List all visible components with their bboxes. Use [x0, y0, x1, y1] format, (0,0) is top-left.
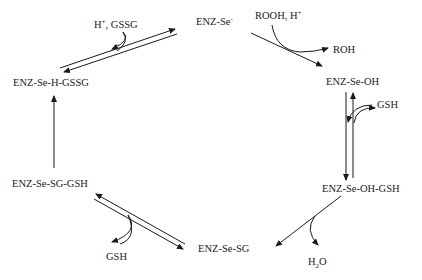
- reagent-gsh-right: GSH: [377, 99, 398, 111]
- reagent-rooh-h: ROOH, H+: [255, 10, 302, 22]
- reagent-h-gssg: H+, GSSG: [94, 19, 138, 31]
- reagent-text: O: [319, 256, 327, 267]
- charge-superscript: +: [298, 9, 302, 17]
- node-enz-se-minus: ENZ-Se-: [196, 16, 233, 28]
- reagent-text: ROOH, H: [255, 10, 298, 21]
- node-enz-se-h-gssg: ENZ-Se-H-GSSG: [13, 77, 89, 89]
- reagent-roh: ROH: [333, 44, 355, 56]
- node-enz-se-oh-gsh: ENZ-Se-OH-GSH: [322, 183, 400, 195]
- arrow-reverse-to-h-gssg: [64, 34, 177, 72]
- node-enz-se-sg-gsh: ENZ-Se-SG-GSH: [12, 178, 88, 190]
- node-enz-se-oh: ENZ-Se-OH: [326, 76, 379, 88]
- arrow-forward-to-enz-se: [60, 29, 175, 68]
- node-enz-se-sg: ENZ-Se-SG: [198, 243, 249, 255]
- arrows-layer: [0, 0, 422, 280]
- charge-superscript: -: [230, 15, 232, 23]
- reagent-text: , GSSG: [106, 19, 138, 30]
- reagent-h2o: H2O: [308, 256, 327, 268]
- reagent-gsh-bottom: GSH: [106, 251, 127, 263]
- reagent-text: H: [94, 19, 102, 30]
- reaction-cycle-diagram: ENZ-Se- ENZ-Se-OH ENZ-Se-OH-GSH ENZ-Se-S…: [0, 0, 422, 280]
- node-label: ENZ-Se: [196, 16, 230, 27]
- reagent-text: H: [308, 256, 316, 267]
